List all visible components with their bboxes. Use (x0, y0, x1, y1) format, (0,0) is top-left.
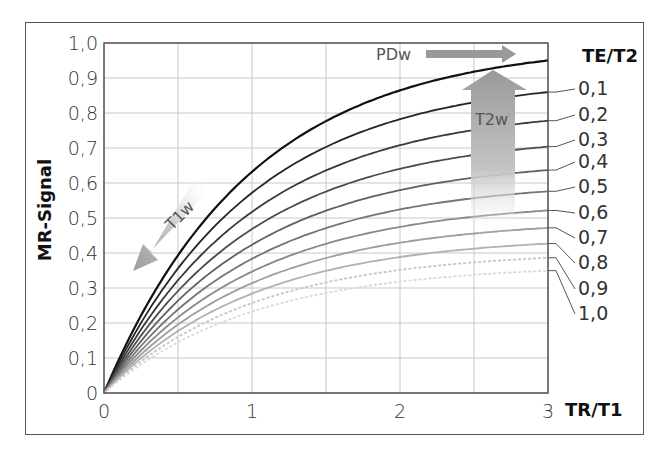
y-tick-label: 0,8 (68, 102, 98, 124)
y-tick-label: 0 (86, 382, 98, 404)
leader-line (548, 140, 575, 147)
x-tick-label: 0 (98, 400, 110, 422)
pdw-label: PDw (376, 45, 411, 64)
x-tick-label: 2 (394, 400, 406, 422)
y-tick-label: 0,6 (68, 172, 98, 194)
y-tick-label: 0,9 (68, 67, 98, 89)
leader-line (548, 115, 575, 121)
y-axis-ticks: 00,10,20,30,40,50,60,70,80,91,0 (68, 32, 98, 404)
pdw-arrow-icon (426, 45, 516, 63)
y-tick-label: 0,1 (68, 347, 98, 369)
y-axis-title: MR-Signal (34, 159, 55, 261)
y-tick-label: 0,4 (68, 242, 98, 264)
te-t2-label: 0,4 (578, 150, 608, 172)
legend-title: TE/T2 (582, 45, 638, 66)
te-t2-label: 0,5 (578, 175, 608, 197)
leader-line (548, 187, 575, 191)
x-axis-title: TR/T1 (565, 399, 623, 420)
x-axis-ticks: 0123 (98, 400, 554, 422)
te-t2-label: 0,3 (578, 128, 608, 150)
leader-line (548, 162, 575, 170)
y-tick-label: 0,5 (68, 207, 98, 229)
y-tick-label: 0,3 (68, 277, 98, 299)
leader-line (548, 244, 575, 263)
te-t2-labels: 0,10,20,30,40,50,60,70,80,91,0 (548, 77, 608, 324)
te-t2-label: 0,7 (578, 226, 608, 248)
leader-line (548, 210, 575, 213)
leader-line (548, 228, 575, 238)
te-t2-label: 0,1 (578, 77, 608, 99)
x-tick-label: 1 (246, 400, 258, 422)
te-t2-label: 0,6 (578, 201, 608, 223)
y-tick-label: 0,7 (68, 137, 98, 159)
x-tick-label: 3 (542, 400, 554, 422)
te-t2-label: 0,9 (578, 277, 608, 299)
leader-line (548, 271, 575, 314)
t2w-arrow-icon (462, 70, 527, 235)
te-t2-label: 1,0 (578, 302, 608, 324)
leader-line (548, 89, 575, 92)
mr-signal-chart: 00,10,20,30,40,50,60,70,80,91,0 0123 0,1… (0, 0, 666, 449)
te-t2-label: 0,8 (578, 251, 608, 273)
y-tick-label: 1,0 (68, 32, 98, 54)
te-t2-label: 0,2 (578, 103, 608, 125)
t2w-label: T2w (474, 110, 508, 129)
y-tick-label: 0,2 (68, 312, 98, 334)
